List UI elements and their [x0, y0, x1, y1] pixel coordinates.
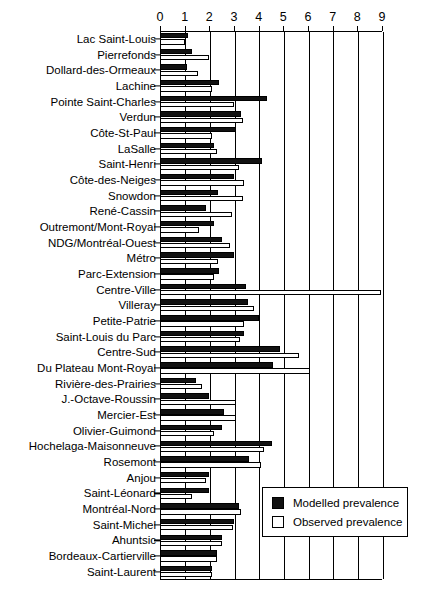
bar-observed: [160, 556, 217, 561]
category-label: Ahuntsic: [112, 534, 156, 546]
chart-row: Petite-Patrie: [0, 313, 427, 329]
category-label: Snowdon: [108, 190, 156, 202]
bar-modelled: [160, 127, 236, 132]
bar-observed: [160, 133, 212, 138]
bar-modelled: [160, 252, 234, 257]
bar-observed: [160, 149, 217, 154]
bar-group: [160, 454, 427, 470]
category-label: Centre-Sud: [97, 346, 156, 358]
category-label: Verdun: [120, 111, 156, 123]
category-label: Côte-St-Paul: [90, 127, 156, 139]
chart-row: Saint-Louis du Parc: [0, 329, 427, 345]
category-label: Anjou: [127, 472, 156, 484]
bar-group: [160, 391, 427, 407]
bar-group: [160, 313, 427, 329]
bar-observed: [160, 447, 264, 452]
chart-row: Outremont/Mont-Royal: [0, 219, 427, 235]
category-label: Du Plateau Mont-Royal: [37, 362, 156, 374]
bar-group: [160, 141, 427, 157]
chart-row: Lac Saint-Louis: [0, 31, 427, 47]
chart-row: Saint-Laurent: [0, 564, 427, 580]
bar-observed: [160, 462, 261, 467]
bar-modelled: [160, 33, 188, 38]
bar-observed: [160, 227, 199, 232]
x-axis-tick-label: 8: [347, 11, 367, 24]
category-label: Rivière-des-Prairies: [55, 378, 156, 390]
bar-group: [160, 47, 427, 63]
bar-group: [160, 94, 427, 110]
bar-group: [160, 564, 427, 580]
chart-row: Centre-Ville: [0, 282, 427, 298]
chart-row: Mercier-Est: [0, 407, 427, 423]
bar-modelled: [160, 362, 273, 367]
bar-observed: [160, 478, 206, 483]
bar-modelled: [160, 143, 214, 148]
x-axis-tick-label: 6: [298, 11, 318, 24]
chart-row: LaSalle: [0, 141, 427, 157]
bar-group: [160, 329, 427, 345]
bar-modelled: [160, 315, 259, 320]
bar-observed: [160, 118, 243, 123]
chart-legend: Modelled prevalence Observed prevalence: [262, 487, 408, 537]
chart-row: Côte-des-Neiges: [0, 172, 427, 188]
bar-group: [160, 156, 427, 172]
category-label: J.-Octave-Roussin: [61, 393, 156, 405]
bar-observed: [160, 165, 239, 170]
bar-modelled: [160, 393, 209, 398]
bar-modelled: [160, 503, 239, 508]
bar-observed: [160, 353, 299, 358]
category-label: Centre-Ville: [96, 284, 156, 296]
category-label: Hochelaga-Maisonneuve: [29, 440, 156, 452]
bar-modelled: [160, 519, 234, 524]
bar-observed: [160, 39, 185, 44]
category-label: René-Cassin: [90, 205, 156, 217]
bar-modelled: [160, 346, 280, 351]
chart-row: Rivière-des-Prairies: [0, 376, 427, 392]
bar-modelled: [160, 158, 262, 163]
bar-modelled: [160, 174, 234, 179]
category-label: Pierrefonds: [97, 49, 156, 61]
category-label: Métro: [127, 252, 156, 264]
bar-modelled: [160, 331, 244, 336]
bar-group: [160, 297, 427, 313]
chart-row: Centre-Sud: [0, 344, 427, 360]
bar-group: [160, 282, 427, 298]
x-axis-tick-label: 9: [372, 11, 392, 24]
bar-observed: [160, 368, 310, 373]
bar-group: [160, 172, 427, 188]
chart-row: Pointe Saint-Charles: [0, 94, 427, 110]
bar-modelled: [160, 566, 212, 571]
category-label: Villeray: [119, 299, 157, 311]
chart-row: Villeray: [0, 297, 427, 313]
category-label: Outremont/Mont-Royal: [40, 221, 156, 233]
chart-row: Saint-Henri: [0, 156, 427, 172]
bar-group: [160, 125, 427, 141]
bar-group: [160, 188, 427, 204]
category-label: Bordeaux-Cartierville: [49, 550, 156, 562]
x-axis-tick-label: 7: [323, 11, 343, 24]
bar-observed: [160, 86, 212, 91]
bar-modelled: [160, 425, 222, 430]
bar-group: [160, 235, 427, 251]
bar-observed: [160, 541, 222, 546]
x-axis-top: 0123456789: [160, 11, 382, 31]
chart-row: Verdun: [0, 109, 427, 125]
bar-observed: [160, 71, 198, 76]
x-axis-tick-label: 1: [175, 11, 195, 24]
bar-modelled: [160, 441, 272, 446]
bar-modelled: [160, 409, 224, 414]
bar-observed: [160, 525, 233, 530]
x-axis-tick-label: 0: [150, 11, 170, 24]
category-label: Saint-Michel: [93, 519, 156, 531]
bar-group: [160, 438, 427, 454]
category-label: Saint-Henri: [98, 158, 156, 170]
bar-observed: [160, 274, 214, 279]
chart-row: Anjou: [0, 470, 427, 486]
bar-observed: [160, 572, 212, 577]
bar-modelled: [160, 205, 206, 210]
chart-row: Pierrefonds: [0, 47, 427, 63]
category-label: Olivier-Guimond: [73, 425, 156, 437]
bar-modelled: [160, 456, 249, 461]
chart-row: J.-Octave-Roussin: [0, 391, 427, 407]
chart-row: Côte-St-Paul: [0, 125, 427, 141]
